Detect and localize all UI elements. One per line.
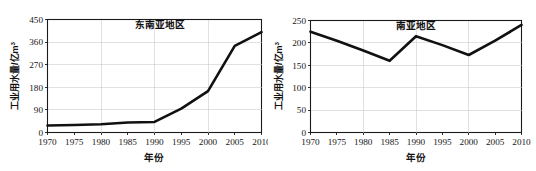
x-tick-label: 1980 <box>354 137 373 147</box>
y-tick-label: 270 <box>29 60 43 70</box>
line-chart-southeast-asia: 090180270360450 197019751980198519901995… <box>0 0 268 171</box>
x-tick-label: 1990 <box>407 137 426 147</box>
y-tick-label: 200 <box>292 38 306 48</box>
x-tick-label: 1970 <box>38 137 57 147</box>
x-tick-label: 2010 <box>512 137 531 147</box>
x-tick-label: 1985 <box>380 137 399 147</box>
x-tick-label: 1970 <box>301 137 320 147</box>
x-tick-label: 1975 <box>65 137 84 147</box>
series-title-label: 南亚地区 <box>396 20 436 31</box>
x-tick-labels: 197019751980198519901995200020052010 <box>38 137 268 147</box>
x-tick-label: 1975 <box>328 137 347 147</box>
x-tick-label: 2005 <box>226 137 245 147</box>
y-tick-label: 250 <box>292 16 306 26</box>
y-tick-labels: 090180270360450 <box>29 15 43 138</box>
x-tick-labels: 197019751980198519901995200020052010 <box>301 137 531 147</box>
y-axis-title: 工业用水量/亿m3 <box>273 41 284 110</box>
x-tick-label: 1980 <box>92 137 111 147</box>
y-tick-label: 450 <box>29 15 43 25</box>
y-tick-label: 100 <box>292 83 306 93</box>
x-tick-label: 1985 <box>119 137 138 147</box>
figure-root: 090180270360450 197019751980198519901995… <box>0 0 536 171</box>
x-tick-label: 1995 <box>172 137 191 147</box>
x-tick-label: 2000 <box>199 137 218 147</box>
x-tick-label: 1995 <box>433 137 452 147</box>
y-axis-title-group: 工业用水量/亿m3 <box>273 41 284 110</box>
y-tick-label: 50 <box>297 105 307 115</box>
x-tick-label: 2000 <box>460 137 479 147</box>
y-tick-label: 360 <box>29 37 43 47</box>
y-tick-label: 150 <box>292 61 306 71</box>
y-axis-title: 工业用水量/亿m3 <box>9 41 20 110</box>
y-tick-label: 90 <box>34 105 44 115</box>
x-tick-label: 2005 <box>486 137 505 147</box>
x-axis-title: 年份 <box>406 152 426 163</box>
x-tick-label: 1990 <box>145 137 164 147</box>
y-tick-label: 180 <box>29 83 43 93</box>
chart-panel-south-asia: 050100150200250 197019751980198519901995… <box>268 0 536 171</box>
y-axis-title-group: 工业用水量/亿m3 <box>9 41 20 110</box>
chart-panel-southeast-asia: 090180270360450 197019751980198519901995… <box>0 0 268 171</box>
y-tick-labels: 050100150200250 <box>292 16 306 138</box>
x-tick-label: 2010 <box>252 137 268 147</box>
x-axis-title: 年份 <box>144 152 164 163</box>
series-title-label: 东南亚地区 <box>135 19 185 30</box>
line-chart-south-asia: 050100150200250 197019751980198519901995… <box>268 0 536 171</box>
